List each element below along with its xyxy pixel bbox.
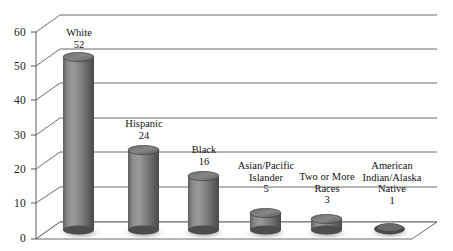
y-tick-label-60: 60	[0, 26, 26, 38]
bar-label-hispanic-category: Hispanic	[110, 118, 178, 130]
bar-black[interactable]	[188, 171, 219, 234]
bar-label-hispanic-value: 24	[110, 130, 178, 142]
bar-label-american-indian-alaska-native: American Indian/Alaska Native 1	[349, 160, 435, 206]
y-tick-label-20: 20	[0, 163, 26, 175]
bar-label-black-category: Black	[174, 144, 234, 156]
y-axis-ticks	[31, 32, 36, 239]
bar-label-black-value: 16	[174, 156, 234, 168]
bar-label-white-value: 52	[48, 39, 110, 51]
bar-label-white-category: White	[48, 27, 110, 39]
bar-two-or-more-races[interactable]	[311, 214, 342, 234]
bar-hispanic[interactable]	[128, 145, 159, 234]
y-tick-label-10: 10	[0, 197, 26, 209]
y-tick-label-50: 50	[0, 60, 26, 72]
bar-label-american-indian-alaska-native-line2: Indian/Alaska	[349, 172, 435, 184]
y-tick-label-0: 0	[0, 232, 26, 244]
bar-label-black: Black 16	[174, 144, 234, 167]
bar-label-hispanic: Hispanic 24	[110, 118, 178, 141]
bar-label-american-indian-alaska-native-value: 1	[349, 195, 435, 207]
y-tick-label-30: 30	[0, 129, 26, 141]
bar-label-american-indian-alaska-native-line3: Native	[349, 183, 435, 195]
bar-chart-3d: 60 50 40 30 20 10 0 White 52 Hispanic 24…	[0, 0, 453, 251]
bar-label-american-indian-alaska-native-line1: American	[349, 160, 435, 172]
bar-asian-pacific-islander[interactable]	[250, 208, 281, 234]
y-tick-label-40: 40	[0, 94, 26, 106]
bar-label-asian-pacific-islander-line1: Asian/Pacific	[226, 160, 306, 172]
bar-label-white: White 52	[48, 27, 110, 50]
bar-white[interactable]	[63, 52, 94, 234]
bar-american-indian-alaska-native[interactable]	[374, 224, 405, 235]
